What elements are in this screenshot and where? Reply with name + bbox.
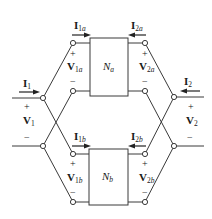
v1b-plus-sign: + xyxy=(70,158,76,169)
i1-label: I1 xyxy=(23,77,31,91)
port1-bottom-node xyxy=(40,143,45,148)
v1a-minus-sign: − xyxy=(70,76,76,87)
i1b-arrow-icon xyxy=(72,144,91,149)
i2a-arrow-icon xyxy=(128,33,146,38)
v1-label: V1 xyxy=(23,114,35,128)
i2-arrow-icon xyxy=(180,89,200,94)
port2-bottom-node xyxy=(171,143,176,148)
v1-plus-sign: + xyxy=(24,101,30,112)
v2b-plus-sign: + xyxy=(142,158,148,169)
v2-minus-sign: − xyxy=(187,132,193,143)
v2b-label: V2b xyxy=(139,171,155,185)
v1-minus-sign: − xyxy=(24,132,30,143)
v1b-label: V1b xyxy=(67,171,83,185)
i2-label: I2 xyxy=(184,75,192,89)
left-bottom-to-na-bottom xyxy=(43,91,73,146)
left-top-to-nb-top xyxy=(43,98,73,154)
nb-port2-bottom-terminal xyxy=(142,199,147,204)
v1a-plus-sign: + xyxy=(70,48,76,59)
right-top-to-nb-top xyxy=(145,97,174,154)
i2b-arrow-icon xyxy=(128,144,146,149)
i1b-label: I1b xyxy=(74,130,86,144)
two-port-parallel-diagram: Na Nb I1 I2 I1a I2a I1b I2b + V1 − + V2 … xyxy=(0,0,212,219)
v2a-plus-sign: + xyxy=(142,48,148,59)
v2b-minus-sign: − xyxy=(142,187,148,198)
na-port2-top-terminal xyxy=(142,40,147,45)
na-port1-top-terminal xyxy=(70,40,75,45)
v1b-minus-sign: − xyxy=(70,187,76,198)
right-bottom-to-nb-bottom xyxy=(145,146,174,202)
nb-port1-bottom-terminal xyxy=(70,199,75,204)
na-port2-bottom-terminal xyxy=(142,88,147,93)
port1-top-node xyxy=(40,95,45,100)
i1a-label: I1a xyxy=(74,19,86,33)
nb-port1-top-terminal xyxy=(70,151,75,156)
v1a-label: V1a xyxy=(67,60,83,74)
v2a-label: V2a xyxy=(139,60,155,74)
nb-port2-top-terminal xyxy=(142,151,147,156)
v2-label: V2 xyxy=(186,114,198,128)
v2-plus-sign: + xyxy=(188,101,194,112)
i1a-arrow-icon xyxy=(72,33,91,38)
v2a-minus-sign: − xyxy=(142,76,148,87)
i2a-label: I2a xyxy=(131,19,143,33)
i2b-label: I2b xyxy=(131,130,143,144)
na-port1-bottom-terminal xyxy=(70,88,75,93)
port2-top-node xyxy=(171,94,176,99)
right-bottom-to-na-bottom xyxy=(145,91,174,146)
